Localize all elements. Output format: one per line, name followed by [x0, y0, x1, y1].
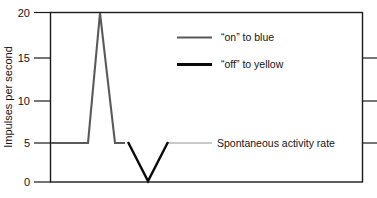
y-tick-label-5: 5: [24, 137, 30, 149]
legend-label-off-to-yellow: “off” to yellow: [221, 58, 284, 70]
y-axis-ticks-left: [34, 13, 51, 183]
y-axis-title: Impulses per second: [2, 46, 14, 148]
y-tick-label-15: 15: [18, 52, 30, 64]
y-tick-label-10: 10: [18, 95, 30, 107]
y-tick-label-20: 20: [18, 7, 30, 19]
legend-label-on-to-blue: “on” to blue: [221, 31, 274, 43]
spontaneous-activity-rate-label: Spontaneous activity rate: [217, 137, 335, 149]
chart-figure: 0 5 10 15 20 Impulses per second Spontan…: [0, 0, 377, 198]
y-axis-ticks-right: [363, 58, 377, 143]
chart-svg: 0 5 10 15 20 Impulses per second Spontan…: [0, 0, 377, 198]
y-tick-label-0: 0: [24, 176, 30, 188]
